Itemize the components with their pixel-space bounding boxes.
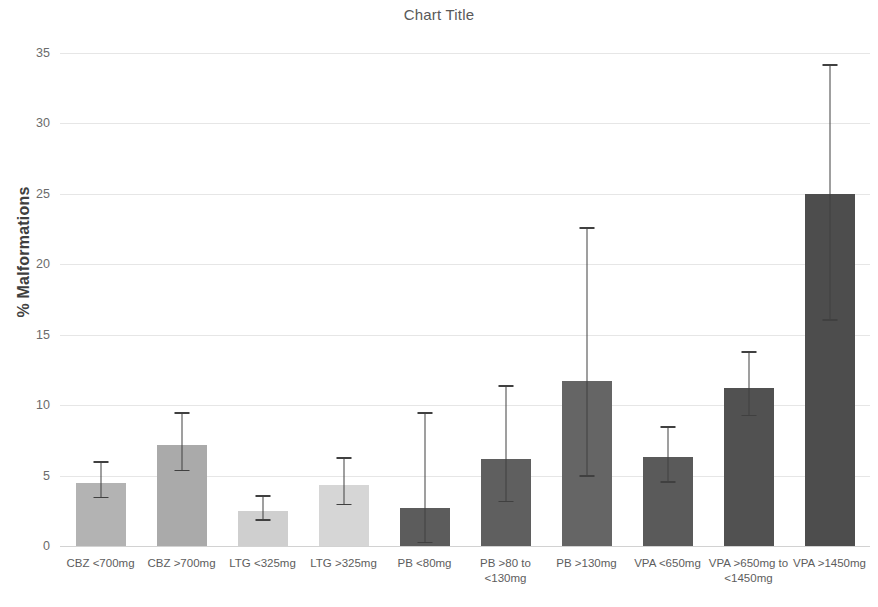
error-bar-line — [505, 387, 506, 503]
error-bar-line — [586, 229, 587, 477]
error-bar-cap-upper — [660, 426, 675, 428]
error-bar-line — [262, 497, 263, 521]
error-bar-cap-upper — [822, 64, 837, 66]
x-tick-label: CBZ <700mg — [60, 556, 141, 571]
y-tick-label: 30 — [10, 116, 50, 130]
y-tick-label: 0 — [10, 539, 50, 553]
x-tick-label: PB >80 to <130mg — [465, 556, 546, 586]
bar-group[interactable] — [384, 53, 465, 546]
error-bar-cap-upper — [336, 457, 351, 459]
y-tick-label: 10 — [10, 398, 50, 412]
bar-group[interactable] — [222, 53, 303, 546]
y-tick-label: 25 — [10, 187, 50, 201]
error-bar-cap-lower — [741, 415, 756, 417]
error-bar-cap-upper — [417, 412, 432, 414]
bar-group[interactable] — [708, 53, 789, 546]
error-bar-cap-lower — [417, 542, 432, 544]
error-bar-cap-lower — [579, 475, 594, 477]
x-tick-label: LTG <325mg — [222, 556, 303, 571]
error-bar-cap-lower — [174, 470, 189, 472]
y-tick-label: 15 — [10, 328, 50, 342]
error-bar-line — [343, 459, 344, 505]
bar-group[interactable] — [789, 53, 870, 546]
error-bar-line — [748, 353, 749, 416]
bar-group[interactable] — [546, 53, 627, 546]
error-bar-line — [667, 428, 668, 483]
chart-title: Chart Title — [0, 6, 878, 23]
x-tick-label: LTG >325mg — [303, 556, 384, 571]
error-bar-cap-lower — [93, 497, 108, 499]
error-bar-cap-lower — [822, 319, 837, 321]
error-bar-cap-upper — [498, 385, 513, 387]
x-tick-label: VPA >650mg to <1450mg — [708, 556, 789, 586]
bar-group[interactable] — [141, 53, 222, 546]
bar-group[interactable] — [60, 53, 141, 546]
x-tick-label: CBZ >700mg — [141, 556, 222, 571]
error-bar-cap-lower — [255, 519, 270, 521]
error-bar-cap-upper — [174, 412, 189, 414]
error-bar-cap-upper — [741, 351, 756, 353]
error-bar-cap-lower — [660, 481, 675, 483]
bar-group[interactable] — [303, 53, 384, 546]
y-tick-label: 20 — [10, 257, 50, 271]
x-tick-label: PB <80mg — [384, 556, 465, 571]
chart-container: Chart Title % Malformations 051015202530… — [0, 0, 878, 607]
x-tick-label: VPA >1450mg — [789, 556, 870, 571]
error-bar-line — [100, 463, 101, 498]
error-bar-cap-lower — [336, 504, 351, 506]
error-bar-cap-lower — [498, 501, 513, 503]
y-tick-label: 5 — [10, 469, 50, 483]
plot-area — [60, 53, 870, 546]
x-tick-label: PB >130mg — [546, 556, 627, 571]
error-bar-cap-upper — [255, 495, 270, 497]
x-tick-label: VPA <650mg — [627, 556, 708, 571]
error-bar-cap-upper — [93, 461, 108, 463]
error-bar-line — [424, 414, 425, 544]
bar-group[interactable] — [627, 53, 708, 546]
error-bar-cap-upper — [579, 227, 594, 229]
bar-group[interactable] — [465, 53, 546, 546]
error-bar-line — [181, 414, 182, 472]
y-tick-label: 35 — [10, 46, 50, 60]
gridline — [60, 546, 870, 547]
error-bar-line — [829, 66, 830, 321]
